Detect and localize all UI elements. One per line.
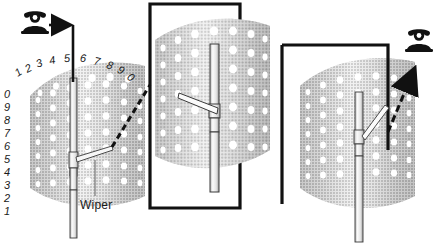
diagram-svg bbox=[0, 0, 437, 248]
step-number-side: 1 bbox=[4, 205, 10, 217]
level-number-top: 5 bbox=[63, 52, 70, 64]
telephone-icon bbox=[18, 8, 52, 34]
step-number-side: 7 bbox=[4, 127, 10, 139]
step-number-side: 3 bbox=[4, 179, 10, 191]
step-number-side: 5 bbox=[4, 153, 10, 165]
level-number-top: 6 bbox=[80, 52, 87, 64]
wiper-label: Wiper bbox=[80, 198, 112, 212]
figure-canvas: 1 2 3 4 5 6 7 8 9 0 0 9 8 7 6 5 4 3 2 1 … bbox=[0, 0, 437, 248]
step-number-side: 2 bbox=[4, 192, 10, 204]
step-number-side: 4 bbox=[4, 166, 10, 178]
step-number-side: 8 bbox=[4, 114, 10, 126]
step-number-side: 0 bbox=[4, 88, 10, 100]
step-number-side: 6 bbox=[4, 140, 10, 152]
step-number-side: 9 bbox=[4, 101, 10, 113]
telephone-icon bbox=[402, 26, 436, 52]
